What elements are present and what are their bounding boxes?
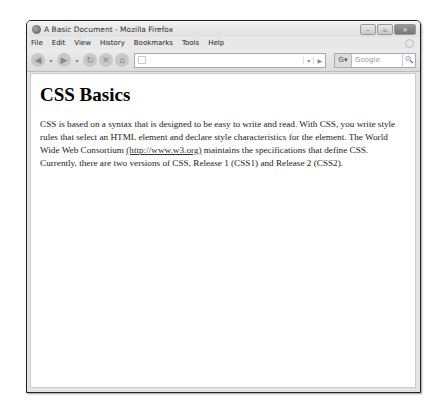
url-input[interactable]: ▾ ▶ xyxy=(134,53,326,68)
go-icon[interactable]: ▶ xyxy=(313,57,325,64)
title-bar: A Basic Document - Mozilla Firefox – ▫ ✕ xyxy=(27,21,420,37)
minimize-button[interactable]: – xyxy=(360,24,376,35)
firefox-icon xyxy=(32,25,41,34)
home-icon[interactable]: ⌂ xyxy=(115,53,129,67)
window-title: A Basic Document - Mozilla Firefox xyxy=(44,25,173,34)
menu-view[interactable]: View xyxy=(74,39,91,47)
back-icon[interactable]: ◀ xyxy=(31,53,45,67)
menu-bookmarks[interactable]: Bookmarks xyxy=(134,39,173,47)
menu-file[interactable]: File xyxy=(31,39,43,47)
w3c-link[interactable]: (http://www.w3.org) xyxy=(126,145,201,155)
navigation-toolbar: ◀ ▾ ▶ ▾ ↻ ✕ ⌂ ▾ ▶ G▾ Google 🔍 xyxy=(27,49,420,72)
search-engine-selector[interactable]: G▾ xyxy=(335,54,352,67)
url-history-dropdown-icon[interactable]: ▾ xyxy=(303,57,313,64)
page-favicon-icon xyxy=(138,56,146,64)
browser-window: A Basic Document - Mozilla Firefox – ▫ ✕… xyxy=(26,20,421,393)
forward-icon[interactable]: ▶ xyxy=(57,53,71,67)
menu-bar: File Edit View History Bookmarks Tools H… xyxy=(27,37,420,49)
search-input[interactable]: Google xyxy=(352,56,402,64)
menu-help[interactable]: Help xyxy=(208,39,224,47)
search-icon[interactable]: 🔍 xyxy=(402,54,415,67)
page-paragraph: CSS is based on a syntax that is designe… xyxy=(40,118,406,170)
menu-edit[interactable]: Edit xyxy=(52,39,66,47)
search-box[interactable]: G▾ Google 🔍 xyxy=(334,53,416,68)
close-button[interactable]: ✕ xyxy=(394,24,416,35)
reload-icon[interactable]: ↻ xyxy=(83,53,97,67)
activity-throbber-icon xyxy=(405,39,414,48)
forward-dropdown-icon[interactable]: ▾ xyxy=(73,53,81,67)
menu-tools[interactable]: Tools xyxy=(182,39,199,47)
maximize-button[interactable]: ▫ xyxy=(377,24,393,35)
page-heading: CSS Basics xyxy=(40,84,406,106)
stop-icon[interactable]: ✕ xyxy=(99,53,113,67)
menu-history[interactable]: History xyxy=(100,39,125,47)
page-content: CSS Basics CSS is based on a syntax that… xyxy=(30,73,416,388)
back-dropdown-icon[interactable]: ▾ xyxy=(47,53,55,67)
